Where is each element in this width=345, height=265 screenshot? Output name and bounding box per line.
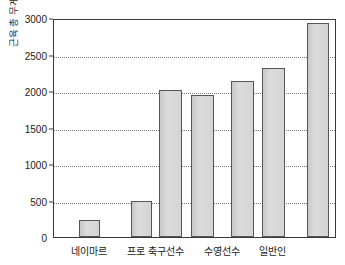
x-axis-category-label: 수영선수 [204,243,240,258]
y-axis-tick-label: 2500 [0,50,47,61]
bar [262,68,285,237]
bar [159,90,182,237]
bar [79,220,100,237]
y-axis-tick-label: 2000 [0,87,47,98]
bar [231,81,254,237]
y-axis-tick-label: 1000 [0,160,47,171]
y-axis-tick-label: 1500 [0,123,47,134]
plot-area [53,19,336,238]
bars-group [54,20,335,237]
bar [131,201,152,238]
x-axis-category-label: 일반인 [259,243,286,258]
bar [307,23,329,237]
x-axis-category-label: 네이마르 [71,243,107,258]
bar [191,95,214,237]
bar-chart: 근육 총 무게 050010001500200025003000 네이마르프로 … [0,0,345,265]
y-axis-tick-label: 3000 [0,14,47,25]
y-axis-tick-label: 0 [0,233,47,244]
y-axis-tick-label: 500 [0,196,47,207]
x-axis-category-label: 프로 축구선수 [127,243,184,258]
